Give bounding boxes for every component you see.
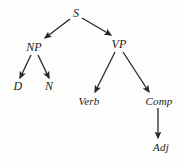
tree-node-n: N (45, 80, 53, 92)
tree-edge-s-to-vp (82, 18, 111, 35)
tree-node-np: NP (26, 41, 42, 53)
edges-group (20, 18, 158, 138)
tree-edges-layer (0, 0, 184, 162)
tree-node-comp: Comp (145, 96, 172, 107)
tree-node-d: D (14, 80, 23, 92)
tree-node-adj: Adj (153, 142, 169, 153)
tree-edge-np-to-n (38, 55, 49, 78)
tree-edge-vp-to-verb (95, 52, 115, 92)
tree-edge-vp-to-comp (123, 52, 149, 92)
syntax-tree-diagram: SNPVPDNVerbCompAdj (0, 0, 184, 162)
tree-node-vp: VP (111, 38, 126, 50)
tree-node-verb: Verb (79, 96, 100, 107)
tree-edge-s-to-np (45, 19, 70, 38)
tree-node-s: S (73, 7, 79, 19)
tree-edge-np-to-d (20, 55, 31, 78)
